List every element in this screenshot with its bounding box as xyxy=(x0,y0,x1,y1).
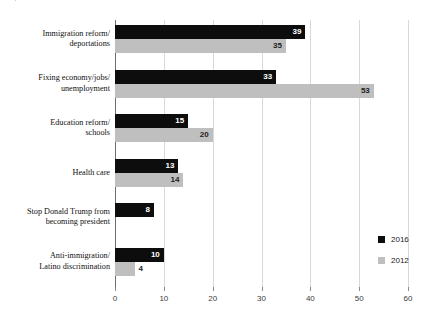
category-label-4: Stop Donald Trump frombecoming president xyxy=(27,207,110,228)
bar-value-2012-2: 20 xyxy=(200,128,209,142)
bar-value-2016-4: 8 xyxy=(146,203,150,217)
bar-2016-1[interactable]: 33 xyxy=(115,70,276,84)
category-label-line: Latino discrimination xyxy=(39,262,110,273)
category-label-line: deportations xyxy=(42,39,110,50)
bar-value-2012-1: 53 xyxy=(361,84,370,98)
bar-2016-0[interactable]: 39 xyxy=(115,25,305,39)
legend-label-2016: 2016 xyxy=(391,235,409,244)
bar-value-2016-2: 15 xyxy=(175,114,184,128)
tick-mark-60 xyxy=(408,287,409,291)
x-tick-label-50: 50 xyxy=(355,294,364,303)
category-label-5: Anti-immigration/Latino discrimination xyxy=(39,251,110,272)
bar-value-2016-1: 33 xyxy=(263,70,272,84)
tick-mark-40 xyxy=(310,287,311,291)
category-label-line: unemployment xyxy=(38,84,110,95)
bar-value-2012-3: 14 xyxy=(170,173,179,187)
bar-2012-2[interactable]: 20 xyxy=(115,128,213,142)
category-label-2: Education reform/schools xyxy=(50,118,110,139)
x-tick-label-10: 10 xyxy=(159,294,168,303)
bar-value-2016-0: 39 xyxy=(293,25,302,39)
x-tick-label-40: 40 xyxy=(306,294,315,303)
x-tick-label-60: 60 xyxy=(404,294,413,303)
tick-mark-30 xyxy=(262,287,263,291)
category-label-line: Anti-immigration/ xyxy=(39,251,110,262)
bar-2012-1[interactable]: 53 xyxy=(115,84,374,98)
legend-swatch-icon-2016 xyxy=(378,236,385,243)
bar-2016-2[interactable]: 15 xyxy=(115,114,188,128)
legend-item-2016[interactable]: 2016 xyxy=(378,232,409,246)
category-label-3: Health care xyxy=(73,168,111,179)
bar-chart: Top issue 0102030405060 Immigration refo… xyxy=(0,0,444,318)
legend-label-2012: 2012 xyxy=(391,256,409,265)
category-label-line: Stop Donald Trump from xyxy=(27,207,110,218)
bar-value-2012-5: 4 xyxy=(139,262,143,276)
bar-2016-4[interactable]: 8 xyxy=(115,203,154,217)
bar-value-2016-3: 13 xyxy=(166,159,175,173)
category-label-line: Immigration reform/ xyxy=(42,29,110,40)
x-tick-label-0: 0 xyxy=(113,294,117,303)
bar-2012-0[interactable]: 35 xyxy=(115,39,286,53)
plot-area: 39353353152013148104 xyxy=(115,20,408,287)
tick-mark-10 xyxy=(164,287,165,291)
tick-mark-50 xyxy=(359,287,360,291)
category-label-line: becoming president xyxy=(27,217,110,228)
category-label-1: Fixing economy/jobs/unemployment xyxy=(38,73,110,94)
category-label-line: Fixing economy/jobs/ xyxy=(38,73,110,84)
cropped-title-fragment: Top issue xyxy=(6,0,40,1)
legend-item-2012[interactable]: 2012 xyxy=(378,253,409,267)
x-tick-label-20: 20 xyxy=(208,294,217,303)
bar-2016-3[interactable]: 13 xyxy=(115,159,178,173)
tick-mark-20 xyxy=(213,287,214,291)
bar-value-2016-5: 10 xyxy=(151,248,160,262)
category-label-line: schools xyxy=(50,128,110,139)
bar-2012-3[interactable]: 14 xyxy=(115,173,183,187)
bar-2016-5[interactable]: 10 xyxy=(115,248,164,262)
category-label-line: Health care xyxy=(73,168,111,179)
category-label-0: Immigration reform/deportations xyxy=(42,29,110,50)
bar-value-2012-0: 35 xyxy=(273,39,282,53)
x-tick-label-30: 30 xyxy=(257,294,266,303)
category-label-line: Education reform/ xyxy=(50,118,110,129)
legend-swatch-icon-2012 xyxy=(378,257,385,264)
bar-2012-5[interactable]: 4 xyxy=(115,262,135,276)
tick-mark-0 xyxy=(115,287,116,291)
legend: 2016 2012 xyxy=(378,232,409,274)
